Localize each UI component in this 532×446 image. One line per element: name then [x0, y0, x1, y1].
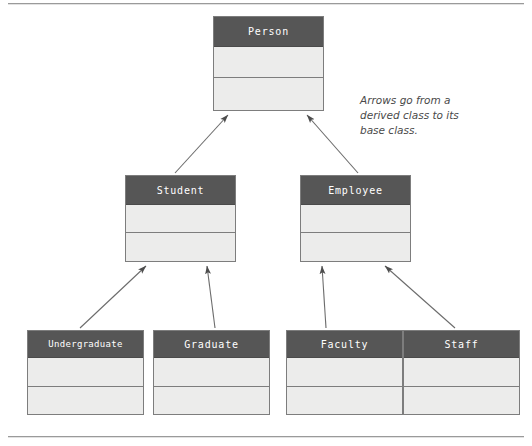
- diagram-canvas: Person Student Employee Undergraduate Gr…: [0, 8, 532, 432]
- annotation-line-2: derived class to its: [360, 108, 500, 123]
- class-box-student[interactable]: Student: [125, 175, 236, 262]
- class-attributes-undergraduate: [28, 358, 143, 387]
- arrow-staff-to-employee: [385, 266, 455, 328]
- class-operations-person: [214, 78, 323, 110]
- class-attributes-employee: [301, 205, 410, 233]
- class-box-person[interactable]: Person: [213, 16, 324, 111]
- arrow-graduate-to-student: [207, 266, 215, 328]
- class-operations-staff: [404, 387, 519, 414]
- diagram-annotation: Arrows go from a derived class to its ba…: [360, 93, 500, 138]
- arrow-student-to-person: [175, 115, 228, 173]
- class-operations-employee: [301, 233, 410, 261]
- class-attributes-staff: [404, 358, 519, 387]
- class-operations-faculty: [287, 387, 402, 414]
- page-rule-bottom: [8, 436, 524, 438]
- annotation-line-3: base class.: [360, 123, 500, 138]
- annotation-line-1: Arrows go from a: [360, 93, 500, 108]
- class-name-student: Student: [126, 176, 235, 205]
- class-attributes-faculty: [287, 358, 402, 387]
- class-box-undergraduate[interactable]: Undergraduate: [27, 330, 144, 415]
- class-name-graduate: Graduate: [154, 331, 269, 358]
- class-operations-graduate: [154, 387, 269, 414]
- class-name-undergraduate: Undergraduate: [28, 331, 143, 358]
- class-attributes-graduate: [154, 358, 269, 387]
- arrow-employee-to-person: [307, 115, 358, 173]
- class-operations-undergraduate: [28, 387, 143, 414]
- class-name-faculty: Faculty: [287, 331, 402, 358]
- class-attributes-student: [126, 205, 235, 233]
- arrow-faculty-to-employee: [322, 266, 326, 328]
- class-operations-student: [126, 233, 235, 261]
- page-rule-top: [8, 3, 524, 5]
- class-name-employee: Employee: [301, 176, 410, 205]
- class-box-graduate[interactable]: Graduate: [153, 330, 270, 415]
- class-box-staff[interactable]: Staff: [403, 330, 520, 415]
- class-name-staff: Staff: [404, 331, 519, 358]
- class-name-person: Person: [214, 17, 323, 47]
- class-box-employee[interactable]: Employee: [300, 175, 411, 262]
- class-box-faculty[interactable]: Faculty: [286, 330, 403, 415]
- class-attributes-person: [214, 47, 323, 78]
- arrow-undergraduate-to-student: [80, 266, 146, 328]
